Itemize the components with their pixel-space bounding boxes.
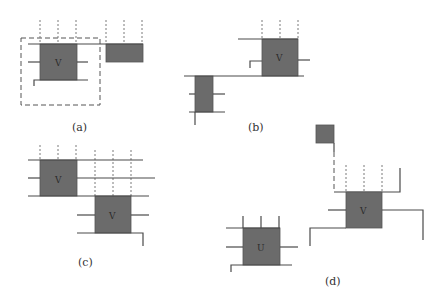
panel-b: V (b) (184, 20, 310, 134)
panel-d: V U (d) (226, 125, 423, 288)
panel-a: V (a) (21, 20, 143, 134)
panel-c: V V (c) (28, 145, 155, 269)
panel-label: (c) (78, 256, 93, 269)
cell-label: V (359, 206, 367, 216)
cell-label: V (275, 53, 283, 63)
neighbor-cell (195, 76, 213, 112)
cell-label: V (108, 211, 116, 221)
cell-label: V (54, 58, 62, 68)
panel-label: (b) (248, 121, 264, 134)
diagram-canvas: V (a) V (b) V V (0, 0, 446, 303)
distant-cell (316, 125, 334, 143)
neighbor-cell (106, 44, 143, 62)
panel-label: (d) (325, 275, 341, 288)
cell-label: U (257, 243, 265, 253)
panel-label: (a) (72, 121, 87, 134)
cell-label: V (54, 175, 62, 185)
